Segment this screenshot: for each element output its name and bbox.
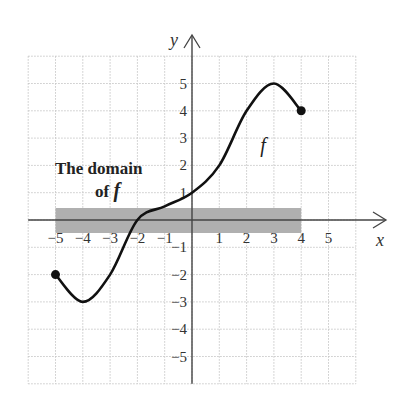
svg-text:−5: −5	[48, 230, 64, 246]
x-axis-label: x	[375, 230, 384, 250]
svg-text:4: 4	[297, 230, 305, 246]
svg-text:1: 1	[216, 230, 224, 246]
curve-label-f: f	[260, 134, 268, 157]
svg-text:−2: −2	[171, 267, 187, 283]
svg-text:−1: −1	[171, 239, 187, 255]
svg-text:−3: −3	[102, 230, 118, 246]
svg-text:5: 5	[325, 230, 333, 246]
svg-text:4: 4	[180, 103, 188, 119]
function-graph: −5−4−3−2−11234554321−1−2−3−4−5 The domai…	[0, 0, 405, 410]
svg-text:−4: −4	[171, 321, 187, 337]
svg-text:−5: −5	[171, 349, 187, 365]
y-axis-label: y	[168, 30, 178, 50]
svg-text:−3: −3	[171, 294, 187, 310]
svg-text:−4: −4	[75, 230, 91, 246]
svg-text:−2: −2	[129, 230, 145, 246]
svg-text:5: 5	[180, 76, 188, 92]
svg-text:3: 3	[180, 130, 188, 146]
domain-label-line2: of f	[95, 179, 122, 202]
svg-text:3: 3	[270, 230, 278, 246]
svg-text:2: 2	[243, 230, 251, 246]
domain-label-line1: The domain	[55, 159, 143, 178]
svg-text:2: 2	[180, 157, 188, 173]
